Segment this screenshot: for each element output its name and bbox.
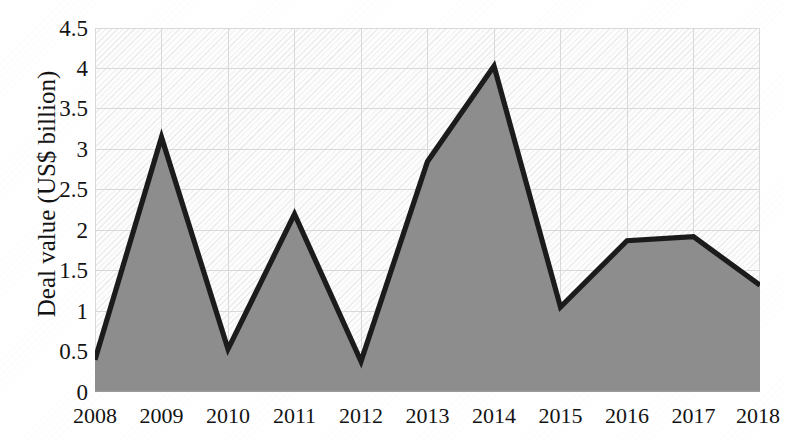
y-tick-label: 0 bbox=[18, 381, 88, 404]
y-tick-label: 1 bbox=[18, 300, 88, 323]
plot-svg bbox=[95, 28, 760, 392]
y-tick-label: 0.5 bbox=[18, 340, 88, 363]
y-tick-label: 4.5 bbox=[18, 17, 88, 40]
plot-area bbox=[95, 28, 760, 392]
y-tick-label: 2 bbox=[18, 219, 88, 242]
x-tick-label: 2018 bbox=[718, 402, 786, 430]
y-tick-label: 4 bbox=[18, 57, 88, 80]
y-tick-label: 2.5 bbox=[18, 178, 88, 201]
y-axis-tick-labels: 4.5 4 3.5 3 2.5 2 1.5 1 0.5 0 bbox=[18, 0, 88, 445]
y-tick-label: 1.5 bbox=[18, 259, 88, 282]
y-tick-label: 3.5 bbox=[18, 97, 88, 120]
y-tick-label: 3 bbox=[18, 138, 88, 161]
x-axis-tick-labels: 2008 2009 2010 2011 2012 2013 2014 2015 … bbox=[0, 402, 786, 442]
area-chart: Deal value (US$ billion) 4.5 4 3.5 3 2.5… bbox=[0, 0, 786, 445]
